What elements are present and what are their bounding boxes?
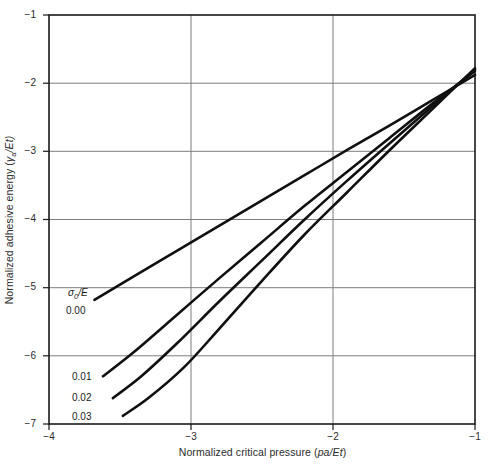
y-tick-label--5: −5 xyxy=(8,281,36,292)
x-tick-label--4: −4 xyxy=(34,431,64,442)
y-tick-label--6: −6 xyxy=(8,350,36,361)
x-axis-title-suffix: ) xyxy=(343,446,347,458)
y-axis-ticks xyxy=(43,15,49,424)
curve-label-0.01: 0.01 xyxy=(72,371,91,382)
y-tick-label--4: −4 xyxy=(8,213,36,224)
y-tick-label--1: −1 xyxy=(8,9,36,20)
curve-label-0.00: 0.00 xyxy=(66,305,85,316)
sigma-denominator: /E xyxy=(78,287,87,298)
y-tick-label--7: −7 xyxy=(8,418,36,429)
x-tick-label--2: −2 xyxy=(318,431,348,442)
curve-label-0.02: 0.02 xyxy=(72,392,91,403)
x-tick-label--1: −1 xyxy=(460,431,490,442)
y-tick-label--3: −3 xyxy=(8,145,36,156)
y-tick-label--2: −2 xyxy=(8,77,36,88)
curve-label-0.03: 0.03 xyxy=(72,411,91,422)
x-axis-ticks xyxy=(49,424,475,430)
series-parameter-label: σ0/E xyxy=(68,287,88,301)
x-tick-label--3: −3 xyxy=(176,431,206,442)
x-axis-title-prefix: Normalized critical pressure ( xyxy=(179,446,318,458)
x-axis-title-symbol: pa/Et xyxy=(318,446,343,458)
x-axis-title: Normalized critical pressure (pa/Et) xyxy=(49,446,476,458)
y-axis-title-symbol: γ xyxy=(3,157,15,162)
chart-figure: Normalized adhesive energy (γa/Et) Norma… xyxy=(0,0,491,469)
